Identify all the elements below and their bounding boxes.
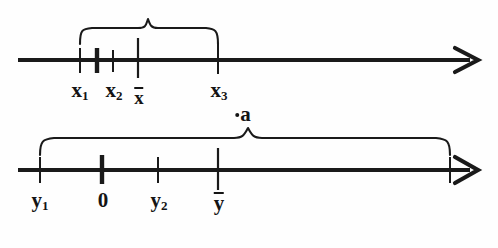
y-number-line-group	[18, 128, 478, 190]
annotation-point-a-base: a	[240, 102, 251, 126]
label-y2: y2	[150, 190, 167, 212]
label-x3: x3	[210, 80, 227, 102]
label-y-bar: y	[214, 192, 225, 214]
x-range-brace	[80, 19, 218, 44]
y-range-brace	[40, 128, 450, 155]
x-number-line-group	[18, 19, 478, 78]
label-zero: 0	[98, 190, 109, 211]
label-x3-base: x	[210, 78, 221, 102]
label-x-bar-base: x	[134, 87, 144, 107]
label-x1-sub: 1	[82, 88, 89, 103]
label-x3-sub: 3	[221, 88, 228, 103]
label-y-bar-base: y	[214, 192, 225, 214]
label-y1-base: y	[31, 188, 42, 212]
point-a-dot-icon	[235, 113, 239, 117]
label-y1-sub: 1	[42, 198, 49, 213]
label-zero-base: 0	[98, 188, 109, 212]
annotation-point-a: a	[235, 104, 251, 125]
label-x2-base: x	[105, 78, 116, 102]
label-x1-base: x	[71, 78, 82, 102]
label-x2: x2	[105, 80, 122, 102]
label-x2-sub: 2	[116, 88, 123, 103]
label-y2-sub: 2	[161, 198, 168, 213]
label-y2-base: y	[150, 188, 161, 212]
label-x1: x1	[71, 80, 88, 102]
label-y1: y1	[31, 190, 48, 212]
figure-root: x1 x2 x x3 a y1 0 y2 y	[0, 0, 498, 248]
label-x-bar: x	[134, 87, 144, 107]
